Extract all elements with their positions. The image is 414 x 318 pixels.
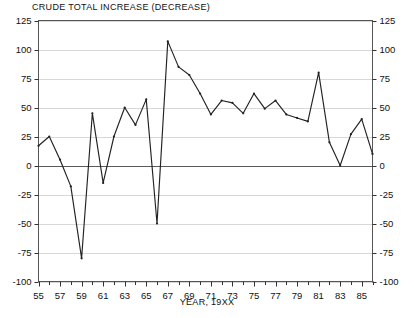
y-tick-label-right: 125 [380, 15, 396, 26]
data-point [81, 257, 83, 259]
data-point [124, 106, 126, 108]
chart-plot-svg: 1251007550250-25-50-75-100 1251007550250… [0, 0, 414, 318]
y-tick-label-left: 50 [21, 102, 32, 113]
chart-container: CRUDE TOTAL INCREASE (DECREASE) 12510075… [0, 0, 414, 318]
data-point [70, 185, 72, 187]
y-tick-label-right: -25 [380, 189, 394, 200]
y-tick-label-left: -100 [12, 276, 31, 287]
y-tick-label-left: 125 [16, 15, 32, 26]
data-point-markers [37, 40, 373, 259]
gridlines-group [39, 22, 373, 283]
data-point [37, 145, 39, 147]
data-point [264, 108, 266, 110]
data-point [361, 118, 363, 120]
data-point [113, 135, 115, 137]
y-tick-label-left: 100 [16, 44, 32, 55]
y-tick-label-right: -100 [380, 276, 399, 287]
y-tick-label-right: -75 [380, 247, 394, 258]
y-tick-label-left: 0 [26, 160, 31, 171]
y-ticks-left [35, 22, 39, 283]
y-tick-label-left: 25 [21, 131, 32, 142]
data-point [307, 120, 309, 122]
y-tick-label-right: 0 [380, 160, 385, 171]
data-point [274, 99, 276, 101]
data-point [221, 99, 223, 101]
data-point [253, 92, 255, 94]
series-line [39, 41, 373, 258]
x-axis-title: YEAR, 19XX [0, 297, 414, 307]
y-tick-label-left: -75 [18, 247, 32, 258]
plot-frame [39, 21, 373, 282]
y-tick-label-left: -50 [18, 218, 32, 229]
data-point [242, 112, 244, 114]
data-point [296, 117, 298, 119]
data-point [285, 113, 287, 115]
y-tick-label-right: 100 [380, 44, 396, 55]
data-point [167, 40, 169, 42]
data-point [188, 74, 190, 76]
data-point [59, 159, 61, 161]
data-point [156, 222, 158, 224]
y-ticks-right [373, 22, 377, 283]
data-point [318, 72, 320, 74]
data-point [210, 113, 212, 115]
data-point [177, 66, 179, 68]
y-tick-labels-right: 1251007550250-25-50-75-100 [380, 15, 399, 287]
y-tick-label-right: 75 [380, 73, 391, 84]
data-point [199, 92, 201, 94]
y-tick-label-left: 75 [21, 73, 32, 84]
data-point [328, 141, 330, 143]
y-tick-label-left: -25 [18, 189, 32, 200]
y-tick-labels-left: 1251007550250-25-50-75-100 [12, 15, 31, 287]
data-point [102, 182, 104, 184]
y-tick-label-right: -50 [380, 218, 394, 229]
data-point [231, 102, 233, 104]
data-point [134, 124, 136, 126]
data-series-group [39, 41, 373, 258]
y-tick-label-right: 50 [380, 102, 391, 113]
data-point [350, 133, 352, 135]
data-point [145, 98, 147, 100]
data-point [48, 135, 50, 137]
data-point [339, 164, 341, 166]
data-point [371, 153, 373, 155]
y-tick-label-right: 25 [380, 131, 391, 142]
data-point [91, 112, 93, 114]
